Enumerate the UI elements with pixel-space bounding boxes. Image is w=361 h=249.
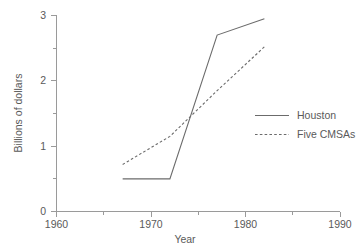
- line-chart: 0 1 2 3 1960 1970 1980 1990 Year Billion…: [0, 0, 361, 249]
- x-tick-label-1980: 1980: [234, 218, 258, 230]
- y-tick-label-1: 1: [40, 140, 46, 152]
- legend: Houston Five CMSAs: [255, 109, 355, 140]
- x-axis-minor-ticks: [104, 212, 293, 216]
- y-tick-label-0: 0: [40, 205, 46, 217]
- y-axis-minor-ticks: [53, 48, 57, 179]
- legend-label-five-cmsas: Five CMSAs: [297, 128, 355, 140]
- y-axis-title: Billions of dollars: [12, 74, 24, 153]
- x-tick-label-1960: 1960: [45, 218, 69, 230]
- x-tick-label-1990: 1990: [328, 218, 352, 230]
- chart-canvas: 0 1 2 3 1960 1970 1980 1990 Year Billion…: [0, 0, 361, 249]
- y-tick-label-2: 2: [40, 74, 46, 86]
- series-line-houston: [123, 19, 265, 179]
- y-tick-label-3: 3: [40, 9, 46, 21]
- legend-label-houston: Houston: [297, 109, 336, 121]
- x-axis-title: Year: [174, 233, 196, 245]
- x-tick-label-1970: 1970: [139, 218, 163, 230]
